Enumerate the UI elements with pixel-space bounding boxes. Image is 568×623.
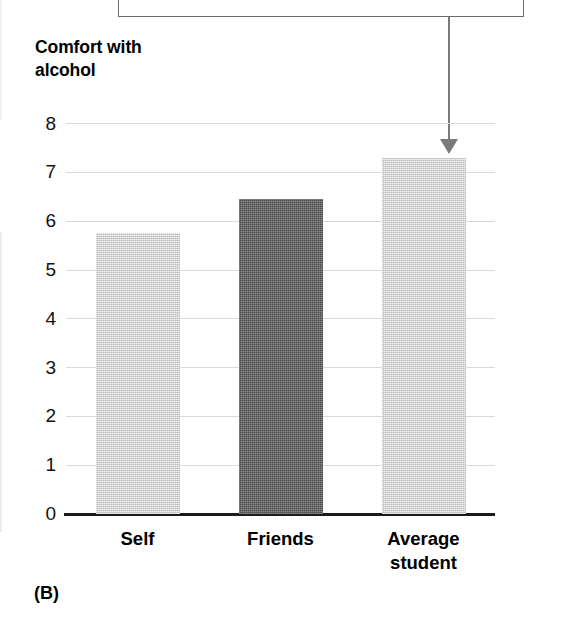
x-tick-label-average-student: Average student <box>352 527 495 574</box>
x-tick-label-self: Self <box>66 527 209 551</box>
y-tick-label-3: 3 <box>0 357 56 379</box>
y-tick-label-4: 4 <box>0 308 56 330</box>
figure-panel-b: Comfort with alcohol 012345678SelfFriend… <box>0 0 568 623</box>
plot-area: 012345678SelfFriendsAverage student <box>0 0 568 623</box>
gridline-8 <box>66 123 495 124</box>
bar-self <box>96 233 180 514</box>
y-tick-label-7: 7 <box>0 161 56 183</box>
panel-label: (B) <box>34 583 59 604</box>
x-tick-label-friends: Friends <box>209 527 352 551</box>
y-tick-label-0: 0 <box>0 503 56 525</box>
bar-friends <box>239 199 323 514</box>
y-tick-label-1: 1 <box>0 454 56 476</box>
bar-average-student <box>382 158 466 514</box>
y-tick-label-2: 2 <box>0 405 56 427</box>
y-tick-label-5: 5 <box>0 259 56 281</box>
y-tick-label-8: 8 <box>0 113 56 135</box>
y-tick-label-6: 6 <box>0 210 56 232</box>
